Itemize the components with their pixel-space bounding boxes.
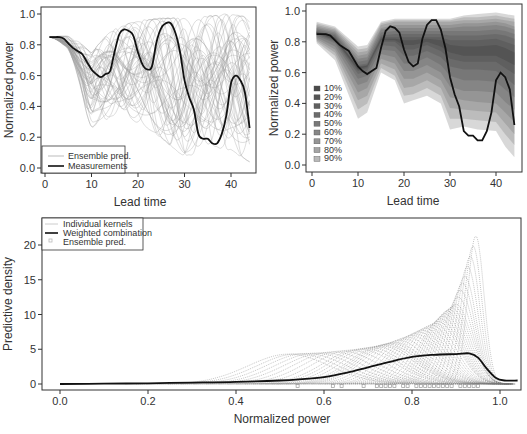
kernel-line [391,306,514,384]
legend-ensemble-label: Ensemble pred. [68,151,131,161]
kernel-line [414,283,511,384]
legend-ensemble-label: Ensemble pred. [63,237,126,247]
kernel-line [355,323,513,384]
panel-ensemble-trajectories: 010203040 0.00.20.40.60.81.0 Lead time N… [2,7,256,209]
ensemble-pred-marker [419,385,422,388]
ensemble-pred-marker [340,385,343,388]
legend-label: 90% [324,153,342,163]
x-tick-label: 0.0 [52,395,67,407]
ensemble-pred-marker [428,385,431,388]
ensemble-pred-marker [433,385,436,388]
x-tick-label: 30 [178,178,190,190]
kernel-line [380,311,514,384]
ensemble-pred-marker [375,385,378,388]
x-axis: 010203040 [42,173,237,190]
ensemble-pred-marker [362,385,365,388]
ensemble-pred-marker [415,385,418,388]
y-tick-label: 0.2 [285,128,300,140]
y-tick-label: 10 [24,309,36,321]
x-axis: 010203040 [309,172,502,189]
legend-swatch [314,121,320,126]
legend-swatch [314,95,320,100]
ensemble-pred-marker [389,385,392,388]
y-tick-label: 1.0 [20,8,35,20]
ensemble-pred-marker [393,385,396,388]
ensemble-pred-marker [331,385,334,388]
x-axis-title: Normalized power [234,412,331,426]
x-tick-label: 0.6 [316,395,331,407]
x-tick-label: 0 [42,178,48,190]
legend: Individual kernels Weighted combination … [42,218,152,250]
x-tick-label: 0 [309,177,315,189]
ensemble-pred-marker [477,385,480,388]
y-tick-label: 0.8 [20,39,35,51]
ensemble-pred-marker [384,385,387,388]
x-axis-title: Lead time [114,195,167,209]
x-tick-label: 0.4 [228,395,243,407]
legend-measurements-label: Measurements [68,161,128,171]
kernel-line [366,319,516,384]
x-axis-title: Lead time [387,194,440,208]
y-tick-label: 0 [30,378,36,390]
legend: 10%20%30%40%50%60%70%80%90% [314,83,342,163]
ensemble-pred-marker [296,385,299,388]
x-tick-label: 20 [132,178,144,190]
legend-swatch [314,156,320,161]
ensemble-pred-marker [459,385,462,388]
y-tick-label: 0.4 [20,100,35,112]
x-tick-label: 30 [444,177,456,189]
kernel-line [443,236,509,384]
y-tick-label: 0.2 [20,131,35,143]
legend-swatch [314,104,320,109]
legend-swatch [314,86,320,91]
y-tick-label: 0.6 [285,67,300,79]
ensemble-pred-marker [468,385,471,388]
ensemble-pred-marker [424,385,427,388]
y-axis: 0.00.20.40.60.81.0 [285,5,306,171]
panel-predictive-density: 0.00.20.40.60.81.0 05101520 Normalized p… [1,218,521,426]
ensemble-pred-marker [437,385,440,388]
ensemble-pred-marker [450,385,453,388]
legend-swatch [314,112,320,117]
y-tick-label: 1.0 [285,5,300,17]
y-axis-title: Predictive density [1,257,15,351]
y-tick-label: 0.0 [285,159,300,171]
ensemble-pred-marker [402,385,405,388]
y-axis-title: Normalized power [2,42,16,139]
y-tick-label: 20 [24,239,36,251]
x-tick-label: 10 [352,177,364,189]
y-tick-label: 15 [24,274,36,286]
x-axis: 0.00.20.40.60.81.0 [52,390,507,407]
panel-quantile-fan: 010203040 0.00.20.40.60.81.0 Lead time N… [267,4,522,208]
ensemble-pred-markers [296,385,479,388]
legend-swatch [314,148,320,153]
individual-kernels [126,236,516,384]
x-tick-label: 40 [490,177,502,189]
ensemble-pred-marker [463,385,466,388]
ensemble-pred-marker [380,385,383,388]
y-tick-label: 0.8 [285,36,300,48]
kernel-line [388,308,516,384]
legend-swatch [314,130,320,135]
x-tick-label: 0.2 [140,395,155,407]
ensemble-pred-marker [472,385,475,388]
y-axis: 05101520 [24,239,42,390]
y-axis-title: Normalized power [267,40,281,137]
ensemble-pred-marker [446,385,449,388]
y-tick-label: 5 [30,343,36,355]
x-tick-label: 40 [225,178,237,190]
y-tick-label: 0.6 [20,70,35,82]
figure-canvas: 010203040 0.00.20.40.60.81.0 Lead time N… [0,0,527,434]
y-tick-label: 0.0 [20,162,35,174]
x-tick-label: 0.8 [404,395,419,407]
ensemble-pred-marker [441,385,444,388]
ensemble-pred-marker [406,385,409,388]
y-axis: 0.00.20.40.60.81.0 [20,8,41,174]
kernel-line [395,304,515,384]
y-tick-label: 0.4 [285,97,300,109]
x-tick-label: 1.0 [492,395,507,407]
legend-swatch [314,139,320,144]
legend: Ensemble pred. Measurements [42,146,131,173]
kernel-line [420,276,509,384]
x-tick-label: 10 [85,178,97,190]
